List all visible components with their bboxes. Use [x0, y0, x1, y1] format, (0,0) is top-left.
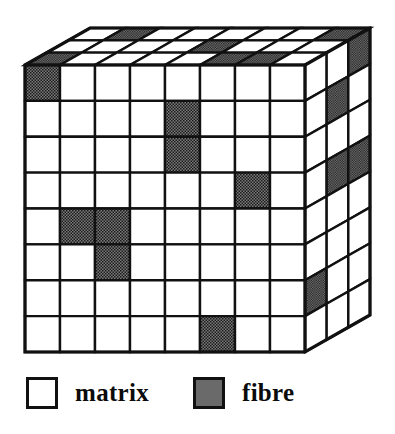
- front-cell-r5-c0: [25, 244, 60, 280]
- front-cell-r6-c3: [130, 280, 165, 316]
- front-cell-r2-c2: [95, 137, 130, 173]
- front-cell-r1-c7: [270, 101, 305, 137]
- front-cell-r2-c3: [130, 137, 165, 173]
- front-cell-r4-c4: [165, 209, 200, 245]
- front-cell-r1-c4: [165, 101, 200, 137]
- front-cell-r5-c5: [200, 244, 235, 280]
- front-cell-r4-c2: [95, 209, 130, 245]
- cube-front-face: [25, 65, 305, 352]
- front-cell-r0-c6: [235, 65, 270, 101]
- front-cell-r3-c1: [60, 173, 95, 209]
- front-cell-r7-c0: [25, 316, 60, 352]
- front-cell-r1-c0: [25, 101, 60, 137]
- front-cell-r2-c0: [25, 137, 60, 173]
- front-cell-r5-c1: [60, 244, 95, 280]
- front-cell-r6-c1: [60, 280, 95, 316]
- front-cell-r7-c7: [270, 316, 305, 352]
- front-cell-r2-c6: [235, 137, 270, 173]
- front-cell-r2-c1: [60, 137, 95, 173]
- front-cell-r4-c1: [60, 209, 95, 245]
- front-cell-r3-c0: [25, 173, 60, 209]
- front-cell-r2-c5: [200, 137, 235, 173]
- front-cell-r0-c5: [200, 65, 235, 101]
- legend-item-fibre: fibre: [193, 377, 294, 409]
- fibre-swatch: [193, 377, 225, 409]
- front-cell-r5-c3: [130, 244, 165, 280]
- front-cell-r7-c1: [60, 316, 95, 352]
- front-cell-r5-c6: [235, 244, 270, 280]
- front-cell-r4-c5: [200, 209, 235, 245]
- front-cell-r1-c6: [235, 101, 270, 137]
- front-cell-r5-c4: [165, 244, 200, 280]
- front-cell-r4-c6: [235, 209, 270, 245]
- legend-label-matrix: matrix: [75, 379, 149, 407]
- front-cell-r0-c7: [270, 65, 305, 101]
- front-cell-r2-c4: [165, 137, 200, 173]
- front-cell-r7-c4: [165, 316, 200, 352]
- front-cell-r5-c2: [95, 244, 130, 280]
- front-cell-r6-c5: [200, 280, 235, 316]
- legend: matrix fibre: [0, 358, 395, 428]
- front-cell-r7-c5: [200, 316, 235, 352]
- front-cell-r0-c2: [95, 65, 130, 101]
- front-cell-r4-c3: [130, 209, 165, 245]
- legend-item-matrix: matrix: [26, 377, 149, 409]
- front-cell-r6-c0: [25, 280, 60, 316]
- front-cell-r0-c3: [130, 65, 165, 101]
- front-cell-r6-c7: [270, 280, 305, 316]
- front-cell-r2-c7: [270, 137, 305, 173]
- front-cell-r1-c5: [200, 101, 235, 137]
- figure-container: matrix fibre: [0, 0, 395, 434]
- legend-label-fibre: fibre: [242, 379, 294, 407]
- front-cell-r4-c0: [25, 209, 60, 245]
- front-cell-r0-c0: [25, 65, 60, 101]
- front-cell-r6-c2: [95, 280, 130, 316]
- front-cell-r0-c4: [165, 65, 200, 101]
- front-cell-r1-c3: [130, 101, 165, 137]
- front-cell-r3-c7: [270, 173, 305, 209]
- front-cell-r7-c3: [130, 316, 165, 352]
- cube-right-face: [305, 28, 370, 352]
- front-cell-r1-c2: [95, 101, 130, 137]
- front-cell-r4-c7: [270, 209, 305, 245]
- front-cell-r6-c6: [235, 280, 270, 316]
- front-cell-r0-c1: [60, 65, 95, 101]
- front-cell-r5-c7: [270, 244, 305, 280]
- front-cell-r3-c3: [130, 173, 165, 209]
- front-cell-r1-c1: [60, 101, 95, 137]
- front-cell-r3-c6: [235, 173, 270, 209]
- front-cell-r6-c4: [165, 280, 200, 316]
- front-cell-r3-c2: [95, 173, 130, 209]
- matrix-swatch: [26, 377, 58, 409]
- front-cell-r7-c6: [235, 316, 270, 352]
- front-cell-r3-c4: [165, 173, 200, 209]
- front-cell-r3-c5: [200, 173, 235, 209]
- front-cell-r7-c2: [95, 316, 130, 352]
